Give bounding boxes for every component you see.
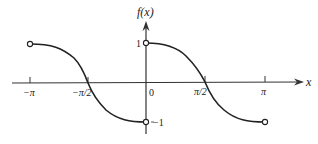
open-endpoint-zero-bottom [143, 119, 148, 124]
tick-label-neg-half-pi: −π/2 [72, 87, 92, 98]
open-endpoint-zero-top [143, 40, 148, 45]
open-endpoint-neg-pi [27, 41, 32, 46]
tick-label-pi: π [261, 86, 267, 97]
tick-label-neg-pi: −π [23, 87, 36, 98]
open-endpoint-pi [262, 119, 267, 124]
y-tick-label-neg-one: −1 [153, 117, 164, 128]
tick-label-origin: 0 [149, 87, 154, 98]
tick-label-half-pi: π/2 [194, 86, 207, 97]
x-axis [12, 82, 300, 83]
y-axis-label: f(x) [137, 5, 154, 19]
plot-canvas: x f(x) −π −π/2 0 π/2 π 1 −1 [0, 0, 318, 144]
function-plot: x f(x) −π −π/2 0 π/2 π 1 −1 [0, 0, 318, 144]
x-axis-label: x [305, 75, 312, 89]
y-tick-label-one: 1 [136, 38, 141, 49]
